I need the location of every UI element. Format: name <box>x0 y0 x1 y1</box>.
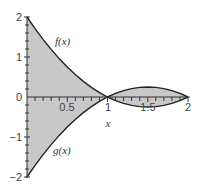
x-tick-2: 2 <box>185 101 191 113</box>
y-tick-0: 0 <box>16 91 22 103</box>
x-tick-0.5: 0.5 <box>59 101 74 113</box>
x-axis-label: x <box>105 117 111 129</box>
chart: 2 1 0 −1 −2 0.5 1 1.5 2 x f(x) g(x) <box>0 0 203 190</box>
y-tick-neg1: −1 <box>9 131 22 143</box>
x-tick-1: 1 <box>105 101 111 113</box>
x-tick-1.5: 1.5 <box>140 101 155 113</box>
y-tick-neg2: −2 <box>9 171 22 183</box>
f-label: f(x) <box>55 35 71 48</box>
y-tick-1: 1 <box>16 51 22 63</box>
g-label: g(x) <box>53 144 71 157</box>
y-tick-2: 2 <box>16 11 22 23</box>
